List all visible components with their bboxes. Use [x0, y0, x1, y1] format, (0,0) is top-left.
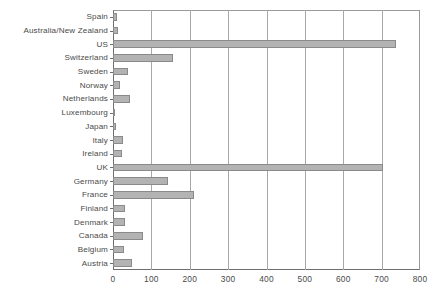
- x-axis-label-300: 300: [221, 274, 236, 284]
- bar-belgium: [113, 246, 124, 254]
- y-axis-label-luxembourg: Luxembourg: [0, 108, 108, 117]
- bar-italy: [113, 136, 123, 144]
- y-axis-label-france: France: [0, 190, 108, 199]
- bar-row: [113, 161, 420, 175]
- bars-layer: [113, 10, 420, 270]
- bar-row: [113, 24, 420, 38]
- bar-row: [113, 243, 420, 257]
- y-axis-label-belgium: Belgium: [0, 245, 108, 254]
- x-axis-label-100: 100: [144, 274, 159, 284]
- bar-france: [113, 191, 194, 199]
- bar-row: [113, 174, 420, 188]
- x-axis-labels: 0100200300400500600700800: [0, 274, 442, 290]
- y-axis-label-switzerland: Switzerland: [0, 53, 108, 62]
- y-axis-label-canada: Canada: [0, 231, 108, 240]
- bar-japan: [113, 123, 116, 131]
- y-axis-label-us: US: [0, 40, 108, 49]
- bar-uk: [113, 164, 383, 172]
- bar-sweden: [113, 68, 128, 76]
- y-axis-label-uk: UK: [0, 163, 108, 172]
- y-axis-label-denmark: Denmark: [0, 218, 108, 227]
- y-axis-label-japan: Japan: [0, 122, 108, 131]
- bar-switzerland: [113, 54, 173, 62]
- x-axis-label-0: 0: [111, 274, 116, 284]
- bar-row: [113, 106, 420, 120]
- y-axis-label-australia-new-zealand: Australia/New Zealand: [0, 26, 108, 35]
- bar-finland: [113, 205, 125, 213]
- bar-us: [113, 40, 396, 48]
- x-axis-label-700: 700: [374, 274, 389, 284]
- y-axis-labels: SpainAustralia/New ZealandUSSwitzerlandS…: [0, 10, 108, 270]
- bar-australia-new-zealand: [113, 27, 118, 35]
- bar-canada: [113, 232, 143, 240]
- bar-netherlands: [113, 95, 130, 103]
- bar-row: [113, 256, 420, 270]
- y-axis-label-netherlands: Netherlands: [0, 94, 108, 103]
- x-axis-label-400: 400: [259, 274, 274, 284]
- bar-row: [113, 229, 420, 243]
- x-axis-label-600: 600: [336, 274, 351, 284]
- bar-row: [113, 37, 420, 51]
- bar-row: [113, 188, 420, 202]
- y-axis-label-austria: Austria: [0, 259, 108, 268]
- y-axis-label-ireland: Ireland: [0, 149, 108, 158]
- bar-row: [113, 65, 420, 79]
- y-axis-label-norway: Norway: [0, 81, 108, 90]
- bar-denmark: [113, 218, 125, 226]
- x-axis-label-500: 500: [298, 274, 313, 284]
- y-axis-label-finland: Finland: [0, 204, 108, 213]
- y-axis-label-spain: Spain: [0, 12, 108, 21]
- x-axis-label-200: 200: [182, 274, 197, 284]
- bar-row: [113, 215, 420, 229]
- bar-row: [113, 78, 420, 92]
- bar-row: [113, 202, 420, 216]
- bar-austria: [113, 259, 132, 267]
- bar-row: [113, 147, 420, 161]
- bar-chart: SpainAustralia/New ZealandUSSwitzerlandS…: [0, 0, 442, 304]
- bar-row: [113, 51, 420, 65]
- bar-norway: [113, 81, 120, 89]
- y-axis-label-italy: Italy: [0, 136, 108, 145]
- bar-row: [113, 119, 420, 133]
- bar-germany: [113, 177, 168, 185]
- bar-row: [113, 92, 420, 106]
- y-axis-label-sweden: Sweden: [0, 67, 108, 76]
- bar-luxembourg: [113, 109, 115, 117]
- bar-ireland: [113, 150, 122, 158]
- bar-row: [113, 10, 420, 24]
- x-axis-label-800: 800: [413, 274, 428, 284]
- bar-spain: [113, 13, 117, 21]
- y-axis-label-germany: Germany: [0, 177, 108, 186]
- bar-row: [113, 133, 420, 147]
